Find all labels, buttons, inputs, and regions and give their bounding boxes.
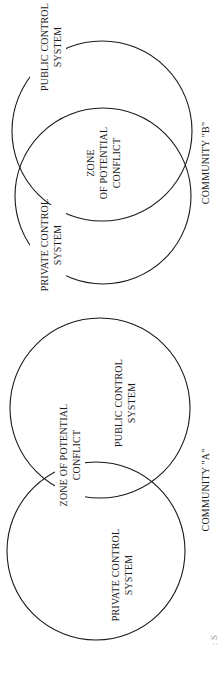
community-b-zone-line-2: OF POTENTIAL	[98, 127, 109, 200]
community-b-zone-line-1: ZONE	[85, 149, 96, 176]
community-a-zone-line-2: CONFLICT	[71, 430, 82, 481]
community-b-venn: PUBLIC CONTROL SYSTEM PRIVATE CONTROL SY…	[12, 3, 211, 291]
community-b-private-label-2: SYSTEM	[52, 225, 63, 266]
community-a-private-label-2: SYSTEM	[123, 555, 134, 596]
community-a-private-label: PRIVATE CONTROL	[110, 529, 121, 622]
community-a-private-circle	[7, 462, 185, 640]
community-a-public-label-2: SYSTEM	[126, 383, 137, 424]
figure-caption-fragment: : S	[209, 635, 219, 645]
community-b-public-label-2: SYSTEM	[52, 27, 63, 68]
community-b-private-label: PRIVATE CONTROL	[39, 199, 50, 292]
community-a-zone-line-1: ZONE OF POTENTIAL	[58, 404, 69, 507]
community-a-public-circle	[10, 318, 190, 498]
community-a-public-label: PUBLIC CONTROL	[113, 359, 124, 447]
community-a-title: COMMUNITY "A"	[200, 449, 211, 532]
community-b-title: COMMUNITY "B"	[200, 122, 211, 204]
community-b-zone-line-3: CONFLICT	[111, 138, 122, 189]
community-b-public-label: PUBLIC CONTROL	[39, 3, 50, 91]
community-a-venn: PUBLIC CONTROL SYSTEM ZONE OF POTENTIAL …	[7, 318, 211, 640]
control-systems-diagram: PUBLIC CONTROL SYSTEM PRIVATE CONTROL SY…	[0, 0, 219, 690]
